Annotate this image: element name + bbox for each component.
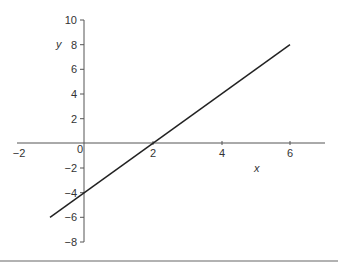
svg-text:2: 2 <box>71 113 77 125</box>
y-tick-labels: 10 8 6 4 2 −2 −4 −6 −8 <box>64 14 77 248</box>
x-tick-labels: −2 0 2 4 6 <box>13 143 293 159</box>
svg-text:−6: −6 <box>64 211 77 223</box>
svg-text:8: 8 <box>71 39 77 51</box>
svg-text:−4: −4 <box>64 187 77 199</box>
svg-text:6: 6 <box>71 63 77 75</box>
svg-text:−2: −2 <box>64 162 77 174</box>
svg-text:10: 10 <box>65 14 77 26</box>
svg-text:−8: −8 <box>64 236 77 248</box>
svg-text:−2: −2 <box>13 147 26 159</box>
svg-text:6: 6 <box>287 147 293 159</box>
svg-text:0: 0 <box>77 143 83 155</box>
svg-text:2: 2 <box>150 147 156 159</box>
y-axis-title: y <box>55 38 63 50</box>
series-line <box>50 45 290 218</box>
svg-text:4: 4 <box>71 88 77 100</box>
x-axis-title: x <box>253 162 260 174</box>
y-ticks <box>80 20 84 242</box>
svg-text:4: 4 <box>219 147 225 159</box>
chart: 10 8 6 4 2 −2 −4 −6 −8 −2 0 2 4 6 y x <box>0 0 338 264</box>
